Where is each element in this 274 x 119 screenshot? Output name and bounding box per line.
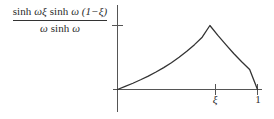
x-tick-label-one: 1 (248, 93, 268, 105)
plot-canvas (0, 0, 274, 119)
greens-function-curve (118, 26, 258, 90)
x-tick-label-xi: ξ (205, 93, 225, 105)
figure-root: sinh ωξ sinh ω (1−ξ) ω sinh ω ξ 1 (0, 0, 274, 119)
